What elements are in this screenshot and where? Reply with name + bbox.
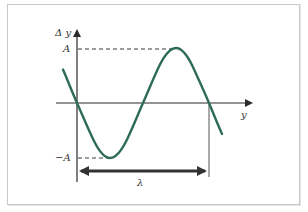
y-axis-label: Δ y (55, 28, 71, 38)
amplitude-pos-label: A (63, 44, 70, 54)
wave-plot (0, 0, 308, 212)
wavelength-label: λ (137, 178, 143, 188)
x-axis-label: y (241, 110, 247, 120)
amplitude-neg-label: −A (55, 153, 71, 163)
